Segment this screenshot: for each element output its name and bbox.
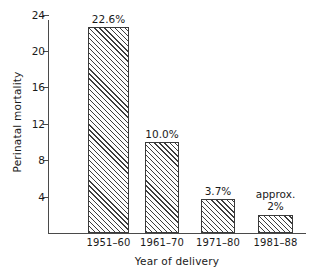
bar-label-group: 3.7% <box>187 186 249 198</box>
perinatal-mortality-bar-chart: Perinatal mortality 4812162024 22.6%1951… <box>0 0 311 280</box>
bar-value-label: 10.0% <box>131 129 193 141</box>
bar-label-group: approx.2% <box>244 189 307 213</box>
bar-1981–88 <box>258 215 293 233</box>
y-axis-tick-label: 8 <box>15 155 45 166</box>
bar-1971–80 <box>201 199 235 233</box>
bar-label-group: 10.0% <box>131 129 193 141</box>
x-axis-line <box>48 233 306 234</box>
y-axis-tick-label: 20 <box>15 46 45 57</box>
x-axis-title: Year of delivery <box>48 255 306 267</box>
y-axis-tick-label: 12 <box>15 119 45 130</box>
y-axis-tick-label: 4 <box>15 192 45 203</box>
x-axis-category-label: 1971–80 <box>189 237 247 248</box>
bar-value-label: 3.7% <box>187 186 249 198</box>
bar-value-label: 2% <box>244 201 307 213</box>
bar-1961–70 <box>145 142 179 233</box>
bar-annotation: approx. <box>244 189 307 201</box>
y-axis-line <box>48 20 49 234</box>
bar-1951–60 <box>88 27 129 233</box>
x-axis-category-label: 1961–70 <box>133 237 191 248</box>
x-axis-category-label: 1981–88 <box>246 237 305 248</box>
y-axis-tick-label: 24 <box>15 10 45 21</box>
x-axis-category-label: 1951–60 <box>76 237 141 248</box>
bar-label-group: 22.6% <box>74 14 143 26</box>
bar-value-label: 22.6% <box>74 14 143 26</box>
y-axis-tick-label: 16 <box>15 82 45 93</box>
